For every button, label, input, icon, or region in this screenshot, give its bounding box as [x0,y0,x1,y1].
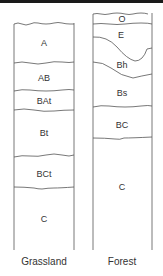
soil-profiles-diagram: A AB BAt Bt BCt C O E Bh Bs BC C Grassla… [0,0,163,276]
forest-profile [93,13,152,250]
boundary-ab-bat [14,90,74,92]
profile-caption-forest: Forest [108,256,137,267]
horizon-label: E [118,30,124,40]
boundary-e-bh [93,37,152,61]
horizon-label: O [118,14,125,24]
grassland-top-surface [14,23,74,26]
horizon-label: BAt [37,96,52,106]
boundary-bct-c [14,187,74,189]
horizon-label: AB [38,73,50,83]
horizon-label: BCt [36,169,52,179]
boundary-bc-c [93,137,152,139]
horizon-label: A [41,38,47,48]
boundary-a-ab [14,62,74,64]
horizon-label: Bt [40,128,49,138]
horizon-label: Bs [117,88,128,98]
horizon-label: C [119,182,126,192]
horizon-label: BC [116,120,129,130]
boundary-bat-bt [14,109,74,111]
profile-caption-grassland: Grassland [21,256,67,267]
boundary-bt-bct [14,154,74,157]
horizon-label: Bh [116,60,127,70]
horizon-label: C [41,214,48,224]
boundary-bs-bc [93,106,152,108]
